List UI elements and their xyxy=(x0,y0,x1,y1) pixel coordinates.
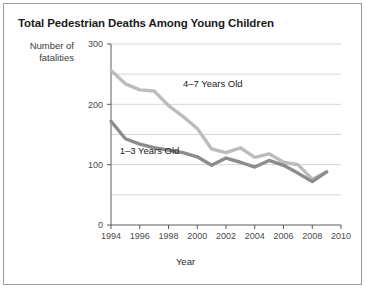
series-label: 1–3 Years Old xyxy=(120,145,180,156)
x-tick-label: 1994 xyxy=(101,231,121,241)
x-tick-label: 2008 xyxy=(302,231,322,241)
chart-frame: Total Pedestrian Deaths Among Young Chil… xyxy=(3,3,362,285)
y-tick-label: 200 xyxy=(88,100,103,110)
y-tick-label: 0 xyxy=(98,220,103,230)
x-axis-title: Year xyxy=(4,256,367,267)
x-axis-ticks: 199419961998200020022004200620082010 xyxy=(101,225,351,241)
x-tick-label: 2000 xyxy=(187,231,207,241)
x-tick-label: 2002 xyxy=(216,231,236,241)
line-chart-plot: 0100200300 19941996199820002002200420062… xyxy=(4,4,363,286)
x-tick-label: 2004 xyxy=(245,231,265,241)
y-tick-label: 100 xyxy=(88,160,103,170)
y-axis-ticks: 0100200300 xyxy=(88,39,111,230)
chart-figure: Total Pedestrian Deaths Among Young Chil… xyxy=(0,0,377,288)
x-tick-label: 1996 xyxy=(130,231,150,241)
series-label: 4–7 Years Old xyxy=(183,78,243,89)
y-tick-label: 300 xyxy=(88,39,103,49)
x-tick-label: 2006 xyxy=(273,231,293,241)
x-tick-label: 1998 xyxy=(158,231,178,241)
x-tick-label: 2010 xyxy=(331,231,351,241)
